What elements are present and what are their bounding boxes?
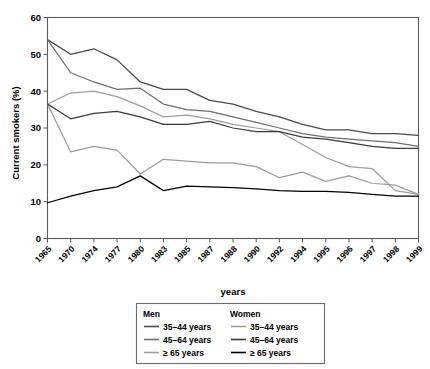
- x-tick-label: 1970: [56, 244, 77, 265]
- y-tick-label: 0: [36, 233, 41, 244]
- smoking-prevalence-line-chart: Current smokers (%) 0102030405060 196519…: [0, 0, 430, 369]
- x-tick-label: 1995: [311, 244, 332, 265]
- x-tick-label: 1977: [103, 244, 124, 265]
- series-line-3: [48, 104, 419, 194]
- x-axis-title: years: [221, 286, 246, 297]
- series-line-0: [48, 40, 419, 136]
- y-tick-label: 40: [30, 86, 41, 97]
- y-tick-label: 60: [30, 12, 41, 23]
- x-tick-label: 1987: [195, 244, 216, 265]
- legend-label-1-2: ≥ 65 years: [250, 348, 291, 358]
- x-tick-marks: [48, 239, 419, 243]
- y-tick-label: 20: [30, 159, 41, 170]
- x-tick-label: 1965: [33, 244, 54, 265]
- x-tick-labels: 1965197019741977198019831985198719881990…: [33, 244, 425, 265]
- x-tick-label: 1999: [404, 244, 425, 265]
- x-tick-label: 1980: [126, 244, 147, 265]
- x-tick-label: 1974: [79, 244, 100, 265]
- y-tick-label: 30: [30, 122, 41, 133]
- legend-header-0: Men: [143, 309, 160, 319]
- x-tick-label: 1996: [334, 244, 355, 265]
- y-axis-title: Current smokers (%): [10, 86, 21, 179]
- x-tick-label: 1990: [242, 244, 263, 265]
- legend-header-1: Women: [230, 309, 261, 319]
- x-tick-label: 1983: [149, 244, 170, 265]
- x-tick-label: 1998: [381, 244, 402, 265]
- legend-label-0-1: 45–64 years: [163, 335, 211, 345]
- series-layer: [48, 40, 419, 203]
- y-tick-label: 50: [30, 49, 41, 60]
- x-tick-label: 1997: [358, 244, 379, 265]
- chart-svg: Current smokers (%) 0102030405060 196519…: [0, 0, 430, 369]
- series-line-4: [48, 104, 419, 148]
- y-tick-label: 10: [30, 196, 41, 207]
- legend-label-0-2: ≥ 65 years: [163, 348, 204, 358]
- x-tick-label: 1992: [265, 244, 286, 265]
- x-tick-label: 1994: [288, 244, 309, 265]
- legend: Men35–44 years45–64 years≥ 65 yearsWomen…: [137, 304, 325, 364]
- x-tick-label: 1988: [218, 244, 239, 265]
- legend-label-1-0: 35–44 years: [250, 322, 298, 332]
- series-line-2: [48, 91, 419, 194]
- legend-label-0-0: 35–44 years: [163, 322, 211, 332]
- legend-label-1-1: 45–64 years: [250, 335, 298, 345]
- x-tick-label: 1985: [172, 244, 193, 265]
- y-tick-labels: 0102030405060: [30, 12, 41, 244]
- y-tick-marks: [44, 18, 48, 239]
